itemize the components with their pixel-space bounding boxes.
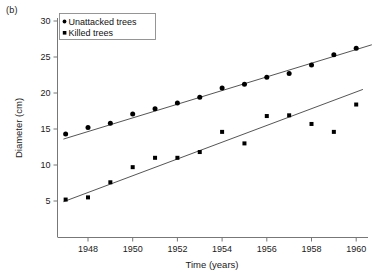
y-tick-label-25: 25	[40, 52, 50, 62]
legend-marker-unattacked	[63, 20, 67, 24]
data-point	[63, 132, 68, 137]
x-tick-label-1954: 1954	[212, 244, 232, 254]
data-point	[265, 114, 269, 118]
data-point	[86, 195, 90, 199]
data-point	[332, 130, 336, 134]
x-tick-label-1960: 1960	[346, 244, 366, 254]
data-point	[220, 85, 225, 90]
x-tick-label-1956: 1956	[257, 244, 277, 254]
data-point	[130, 111, 135, 116]
data-point	[86, 125, 91, 130]
y-tick-label-15: 15	[40, 124, 50, 134]
y-axis-title: Diameter (cm)	[13, 98, 24, 158]
series-unattacked	[63, 45, 372, 139]
data-point	[153, 156, 157, 160]
data-point	[242, 82, 247, 87]
data-point	[197, 95, 202, 100]
data-point	[242, 141, 246, 145]
axes	[58, 18, 369, 238]
data-point	[175, 101, 180, 106]
legend-marker-killed	[63, 31, 67, 35]
y-axis-ticks: 51015202530	[40, 16, 57, 206]
x-tick-label-1948: 1948	[78, 244, 98, 254]
data-point	[64, 198, 68, 202]
data-point	[198, 150, 202, 154]
x-tick-label-1950: 1950	[123, 244, 143, 254]
data-point	[287, 113, 291, 117]
x-axis-ticks: 1948195019521954195619581960	[78, 238, 366, 254]
trend-line-1	[63, 89, 362, 201]
data-point	[354, 103, 358, 107]
data-point	[220, 130, 224, 134]
y-tick-label-5: 5	[45, 196, 50, 206]
data-point	[309, 62, 314, 67]
data-point	[108, 121, 113, 126]
data-point	[153, 106, 158, 111]
data-point	[175, 156, 179, 160]
legend-label-killed: Killed trees	[69, 28, 114, 38]
y-tick-label-20: 20	[40, 88, 50, 98]
data-point	[264, 75, 269, 80]
x-axis-title: Time (years)	[186, 259, 239, 270]
series-killed	[63, 89, 362, 201]
legend-label-unattacked: Unattacked trees	[69, 17, 138, 27]
figure-panel-b: (b) 51015202530 194819501952195419561958…	[0, 0, 374, 273]
legend: Unattacked trees Killed trees	[60, 14, 156, 40]
y-tick-label-10: 10	[40, 160, 50, 170]
data-series-group	[63, 45, 372, 202]
y-tick-label-30: 30	[40, 16, 50, 26]
x-tick-label-1952: 1952	[167, 244, 187, 254]
x-tick-label-1958: 1958	[301, 244, 321, 254]
data-point	[354, 46, 359, 51]
scatter-plot: 51015202530 1948195019521954195619581960…	[0, 0, 374, 273]
data-point	[287, 71, 292, 76]
data-point	[131, 165, 135, 169]
data-point	[331, 52, 336, 57]
data-point	[310, 122, 314, 126]
data-point	[108, 180, 112, 184]
